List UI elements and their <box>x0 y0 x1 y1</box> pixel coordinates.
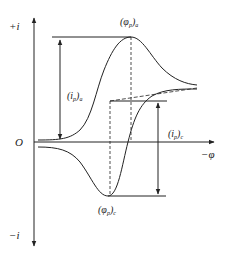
cv-diagram: +i −i O −φ (φp)a (ip)a (ip)c (φp)c <box>0 0 229 255</box>
x-axis-label: −φ <box>201 148 215 160</box>
origin-label: O <box>15 136 23 148</box>
anodic-peak-current-label: (ip)a <box>67 90 82 102</box>
baseline-extrapolation-dashed <box>110 88 197 101</box>
cathodic-peak-potential-label: (φp)c <box>98 204 116 216</box>
anodic-curve <box>38 37 197 140</box>
y-positive-label: +i <box>9 20 19 32</box>
y-negative-label: −i <box>9 229 19 241</box>
cathodic-peak-current-label: (ip)c <box>168 128 183 140</box>
anodic-peak-potential-label: (φp)a <box>120 16 138 28</box>
